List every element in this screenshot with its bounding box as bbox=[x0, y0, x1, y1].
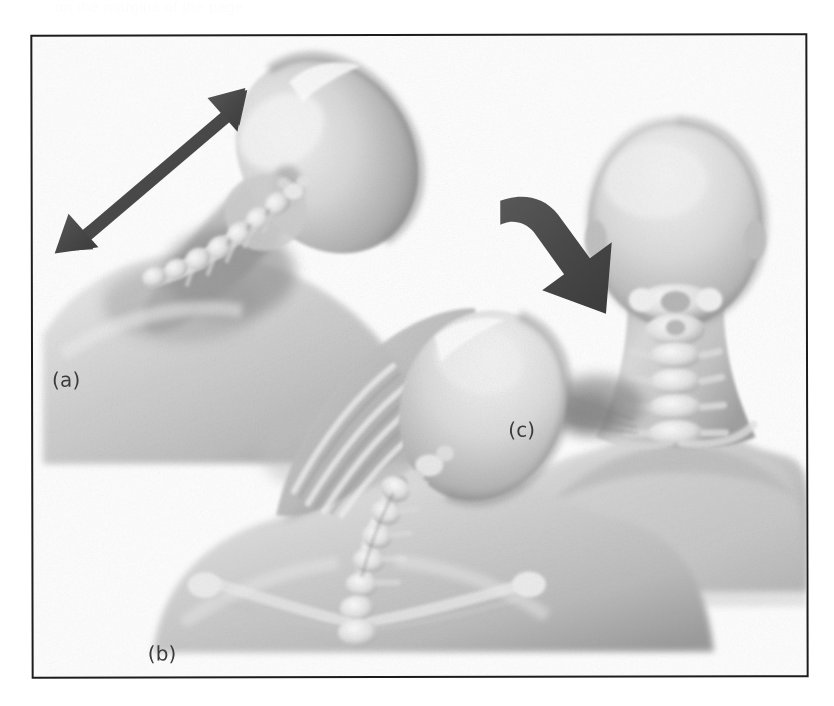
figure-frame: (a) (b) (c) bbox=[30, 33, 808, 679]
panel-label-a: (a) bbox=[52, 368, 81, 392]
anatomical-illustration bbox=[32, 35, 806, 677]
panel-label-c: (c) bbox=[508, 418, 535, 442]
panel-label-b: (b) bbox=[148, 642, 177, 666]
page-bleed-through-text: on the margins of the page bbox=[55, 0, 755, 16]
